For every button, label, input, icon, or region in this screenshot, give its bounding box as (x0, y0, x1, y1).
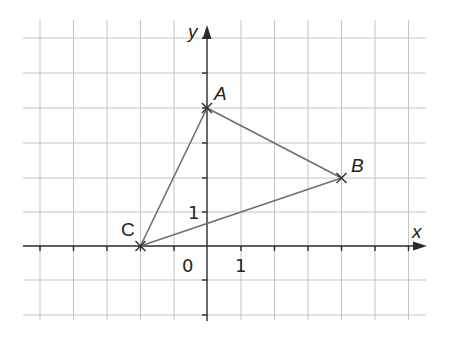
y-axis-arrow-icon (203, 25, 212, 39)
grid (23, 20, 426, 320)
point-b-label: B (351, 155, 364, 176)
x-axis (23, 242, 427, 252)
origin-label: 0 (182, 255, 193, 276)
point-b: B (337, 155, 365, 183)
x-axis-label: x (411, 221, 423, 242)
coordinate-plane: y x 0 1 1 A B C (0, 0, 449, 337)
y-axis (202, 25, 212, 321)
point-c-label: C (121, 219, 135, 240)
x-axis-arrow-icon (413, 242, 427, 251)
y-unit-label: 1 (188, 202, 199, 223)
point-a-label: A (213, 83, 227, 104)
x-unit-label: 1 (235, 255, 246, 276)
y-axis-label: y (186, 21, 199, 42)
